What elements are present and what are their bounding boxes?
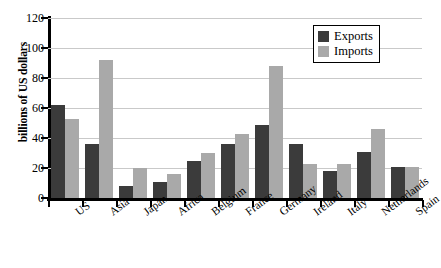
y-axis-tick-mark xyxy=(41,77,48,79)
x-axis-tick-label-us: US xyxy=(73,199,92,217)
gridline xyxy=(48,18,422,19)
y-axis-tick-label: 80 xyxy=(4,72,44,84)
bar-us-imports xyxy=(65,119,79,199)
y-axis-tick-label: 60 xyxy=(4,102,44,114)
bar-africa-imports xyxy=(167,174,181,198)
bar-us-exports xyxy=(51,105,65,198)
y-axis-tick-mark xyxy=(41,107,48,109)
y-axis-tick-mark xyxy=(41,17,48,19)
y-axis-tick-mark xyxy=(41,137,48,139)
y-axis-tick-label: 120 xyxy=(4,12,44,24)
legend-swatch-imports-icon xyxy=(318,46,329,57)
bar-japan-imports xyxy=(133,168,147,198)
bar-belgium-imports xyxy=(201,153,215,198)
y-axis-tick-label: 100 xyxy=(4,42,44,54)
y-axis-tick-label: 40 xyxy=(4,132,44,144)
bar-netherlands-imports xyxy=(371,129,385,198)
y-axis-title: billions of US dollars xyxy=(17,7,29,177)
bar-netherlands-exports xyxy=(357,152,371,199)
bar-germany-exports xyxy=(255,125,269,199)
bar-germany-imports xyxy=(269,66,283,198)
y-axis-tick-label: 20 xyxy=(4,162,44,174)
legend-item-imports: Imports xyxy=(318,44,373,59)
x-axis-tick-mark xyxy=(48,200,50,207)
bar-asia-exports xyxy=(85,144,99,198)
legend-label-imports: Imports xyxy=(334,45,373,58)
legend-swatch-exports-icon xyxy=(318,31,329,42)
y-axis-tick-label: 0 xyxy=(4,192,44,204)
legend-item-exports: Exports xyxy=(318,29,373,44)
y-axis-tick-mark xyxy=(41,167,48,169)
bar-asia-imports xyxy=(99,60,113,198)
chart-legend: Exports Imports xyxy=(313,25,380,63)
legend-label-exports: Exports xyxy=(334,30,373,43)
y-axis-tick-mark xyxy=(41,47,48,49)
